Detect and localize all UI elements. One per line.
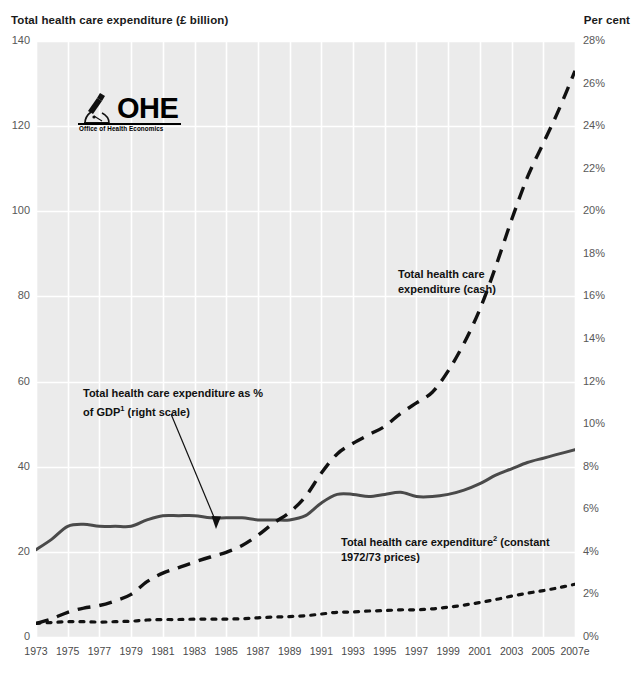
right-axis-tick-0pct: 0% bbox=[583, 630, 599, 642]
right-axis-tick-16pct: 16% bbox=[583, 289, 605, 301]
annotation-constant: Total health care expenditure2 (constant… bbox=[341, 531, 550, 565]
microscope-icon bbox=[78, 91, 118, 125]
left-axis-tick-40: 40 bbox=[0, 460, 30, 472]
annotation-gdp-line2: of GDP1 (right scale) bbox=[83, 401, 263, 420]
annotation-cash-line2: expenditure (cash) bbox=[398, 282, 496, 297]
right-axis-tick-12pct: 12% bbox=[583, 375, 605, 387]
left-axis-tick-80: 80 bbox=[0, 289, 30, 301]
right-axis-tick-8pct: 8% bbox=[583, 460, 599, 472]
left-axis-title: Total health care expenditure (£ billion… bbox=[11, 14, 228, 26]
annotation-constant-line1-tail: (constant bbox=[497, 536, 550, 548]
x-axis-tick-2007e: 2007e bbox=[555, 645, 595, 657]
right-axis-tick-6pct: 6% bbox=[583, 502, 599, 514]
annotation-constant-line2: 1972/73 prices) bbox=[341, 550, 550, 565]
left-axis-tick-20: 20 bbox=[0, 545, 30, 557]
left-axis-tick-0: 0 bbox=[0, 630, 30, 642]
ohe-subtitle: Office of Health Economics bbox=[79, 125, 163, 132]
annotation-gdp-line2-text: of GDP bbox=[83, 406, 120, 418]
left-axis-tick-100: 100 bbox=[0, 204, 30, 216]
annotation-cash: Total health care expenditure (cash) bbox=[398, 267, 496, 297]
right-axis-tick-20pct: 20% bbox=[583, 204, 605, 216]
annotation-gdp-line1: Total health care expenditure as % bbox=[83, 386, 263, 401]
annotation-gdp: Total health care expenditure as % of GD… bbox=[83, 386, 263, 420]
right-axis-tick-28pct: 28% bbox=[583, 34, 605, 46]
right-axis-tick-2pct: 2% bbox=[583, 587, 599, 599]
right-axis-tick-4pct: 4% bbox=[583, 545, 599, 557]
annotation-constant-line1-text: Total health care expenditure bbox=[341, 536, 493, 548]
chart-container: Total health care expenditure (£ billion… bbox=[0, 0, 639, 678]
annotation-constant-line1: Total health care expenditure2 (constant bbox=[341, 531, 550, 550]
ohe-wordmark: OHE bbox=[117, 93, 178, 123]
right-axis-tick-24pct: 24% bbox=[583, 119, 605, 131]
right-axis-tick-10pct: 10% bbox=[583, 417, 605, 429]
left-axis-tick-140: 140 bbox=[0, 34, 30, 46]
left-axis-tick-120: 120 bbox=[0, 119, 30, 131]
left-axis-tick-60: 60 bbox=[0, 375, 30, 387]
right-axis-tick-18pct: 18% bbox=[583, 247, 605, 259]
ohe-logo: OHE Office of Health Economics bbox=[78, 91, 182, 137]
series-line-constant-prices bbox=[36, 584, 575, 623]
annotation-cash-line1: Total health care bbox=[398, 267, 496, 282]
right-axis-tick-14pct: 14% bbox=[583, 332, 605, 344]
right-axis-tick-26pct: 26% bbox=[583, 77, 605, 89]
right-axis-title: Per cent bbox=[584, 14, 630, 26]
annotation-gdp-line2-tail: (right scale) bbox=[124, 406, 189, 418]
plot-area: OHE Office of Health Economics Total hea… bbox=[36, 41, 575, 637]
right-axis-tick-22pct: 22% bbox=[583, 162, 605, 174]
